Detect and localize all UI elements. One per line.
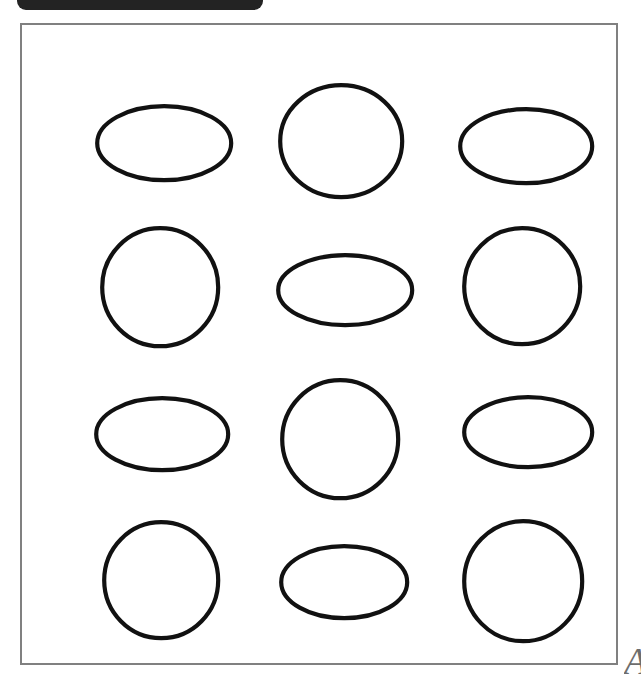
ellipse-outline bbox=[281, 546, 407, 618]
circle-outline bbox=[464, 228, 580, 344]
shape-ellipse-r3c1[interactable] bbox=[86, 388, 238, 480]
ellipse-icon bbox=[87, 96, 241, 190]
circle-icon bbox=[94, 512, 228, 648]
shape-circle-r4c1[interactable] bbox=[94, 512, 228, 648]
ellipse-outline bbox=[97, 106, 231, 180]
ellipse-outline bbox=[96, 398, 228, 470]
ellipse-icon bbox=[271, 536, 417, 628]
header-tab[interactable] bbox=[17, 0, 263, 10]
circle-outline bbox=[282, 380, 398, 498]
shape-circle-r2c1[interactable] bbox=[92, 218, 228, 356]
worksheet-frame bbox=[20, 23, 618, 665]
shape-ellipse-r2c2[interactable] bbox=[268, 245, 422, 335]
ellipse-outline bbox=[464, 397, 592, 467]
shape-ellipse-r3c3[interactable] bbox=[454, 387, 602, 477]
circle-icon bbox=[454, 218, 590, 354]
worksheet-page: A bbox=[0, 0, 641, 681]
ellipse-icon bbox=[268, 245, 422, 335]
circle-outline bbox=[104, 522, 218, 638]
shape-grid bbox=[22, 25, 620, 667]
ellipse-outline bbox=[278, 255, 412, 325]
circle-outline bbox=[280, 85, 402, 197]
shape-ellipse-r1c1[interactable] bbox=[87, 96, 241, 190]
corner-watermark-glyph: A bbox=[624, 641, 641, 681]
shape-circle-r1c2[interactable] bbox=[270, 75, 412, 207]
shape-ellipse-r4c2[interactable] bbox=[271, 536, 417, 628]
circle-outline bbox=[102, 228, 218, 346]
ellipse-icon bbox=[454, 387, 602, 477]
ellipse-icon bbox=[86, 388, 238, 480]
ellipse-icon bbox=[450, 99, 602, 193]
circle-icon bbox=[454, 511, 592, 651]
shape-circle-r3c2[interactable] bbox=[272, 370, 408, 508]
shape-ellipse-r1c3[interactable] bbox=[450, 99, 602, 193]
circle-icon bbox=[272, 370, 408, 508]
shape-circle-r2c3[interactable] bbox=[454, 218, 590, 354]
circle-icon bbox=[270, 75, 412, 207]
circle-outline bbox=[464, 521, 582, 641]
shape-circle-r4c3[interactable] bbox=[454, 511, 592, 651]
circle-icon bbox=[92, 218, 228, 356]
ellipse-outline bbox=[460, 109, 592, 183]
